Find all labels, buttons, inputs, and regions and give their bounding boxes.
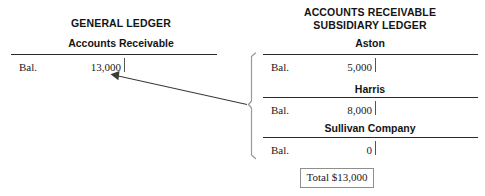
general-ledger-account-name: Accounts Receivable	[41, 37, 201, 49]
subsidiary-grouping-brace	[249, 53, 256, 159]
subsidiary-bal-label-aston: Bal.	[271, 61, 289, 73]
general-ledger-rule	[11, 54, 217, 55]
subsidiary-bal-label-harris: Bal.	[271, 104, 289, 116]
subsidiary-total-box: Total $13,000	[300, 168, 374, 188]
subsidiary-account-name-aston: Aston	[280, 37, 460, 49]
general-ledger-column-tick	[124, 58, 125, 72]
general-ledger-bal-amount: 13,000	[60, 61, 121, 73]
subsidiary-account-name-harris: Harris	[280, 83, 460, 95]
general-ledger-title: GENERAL LEDGER	[41, 17, 201, 29]
subsidiary-column-tick-harris	[375, 101, 376, 115]
subsidiary-bal-label-sullivan-company: Bal.	[271, 144, 289, 156]
flow-arrow	[111, 71, 248, 105]
subsidiary-ledger-title-line2: SUBSIDIARY LEDGER	[280, 19, 460, 31]
ledger-diagram: GENERAL LEDGER Accounts Receivable Bal. …	[0, 0, 485, 196]
subsidiary-column-tick-aston	[375, 58, 376, 72]
subsidiary-bal-amount-harris: 8,000	[310, 104, 372, 116]
subsidiary-rule-harris	[263, 97, 478, 98]
subsidiary-rule-aston	[263, 54, 478, 55]
subsidiary-bal-amount-sullivan-company: 0	[310, 144, 372, 156]
subsidiary-rule-sullivan-company	[263, 137, 478, 138]
subsidiary-ledger-title-line1: ACCOUNTS RECEIVABLE	[280, 6, 460, 18]
subsidiary-bal-amount-aston: 5,000	[310, 61, 372, 73]
subsidiary-column-tick-sullivan-company	[375, 141, 376, 155]
subsidiary-account-name-sullivan-company: Sullivan Company	[280, 122, 460, 134]
general-ledger-bal-label: Bal.	[19, 61, 37, 73]
